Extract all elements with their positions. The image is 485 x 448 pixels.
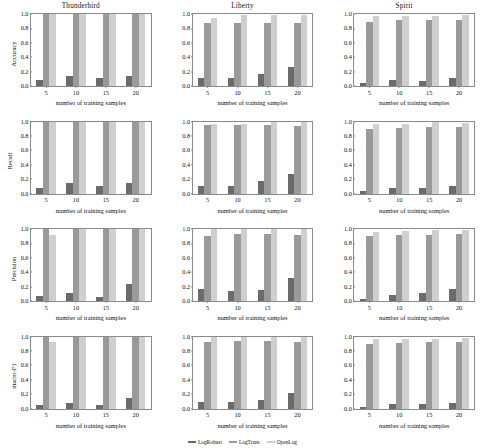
x-axis-tick: 15 — [264, 89, 270, 96]
y-axis-tick: 0.4 — [344, 377, 352, 383]
bar-group-15: 15 — [91, 337, 121, 409]
x-axis-tick: 15 — [103, 304, 109, 311]
legend-swatch-openlog — [267, 441, 275, 444]
x-tick-mark — [267, 193, 268, 195]
bar-group-15: 15 — [414, 122, 444, 194]
bar-openlog — [211, 337, 218, 408]
bar-groups: 5101520 — [354, 14, 474, 86]
x-axis-tick: 10 — [234, 304, 240, 311]
x-axis-tick: 15 — [264, 304, 270, 311]
bar-openlog — [139, 229, 146, 301]
bar-group-5: 5 — [354, 337, 384, 409]
bar-groups: 5101520 — [31, 229, 151, 301]
y-axis-tick: 1.0 — [344, 11, 352, 17]
x-axis-tick: 15 — [426, 304, 432, 311]
y-axis-tick: 0.0 — [344, 83, 352, 89]
bar-group-15: 15 — [253, 337, 283, 409]
x-axis-label: number of training samples — [30, 422, 152, 429]
x-axis-label: number of training samples — [192, 314, 314, 321]
x-axis-tick: 10 — [396, 196, 402, 203]
bar-openlog — [462, 15, 469, 86]
bar-openlog — [49, 235, 56, 301]
y-axis-tick: 0.8 — [182, 348, 190, 354]
y-axis-tick: 0.2 — [344, 68, 352, 74]
x-axis-label: number of training samples — [192, 99, 314, 106]
y-axis-tick: 0.2 — [182, 176, 190, 182]
y-axis-tick: 0.4 — [21, 377, 29, 383]
x-axis-label: number of training samples — [353, 422, 475, 429]
subplot-precision-thunderbird: Precision0.00.20.40.60.81.05101520number… — [0, 215, 162, 323]
x-tick-mark — [429, 408, 430, 410]
bar-group-10: 10 — [384, 229, 414, 301]
y-axis-tick: 0.0 — [182, 405, 190, 411]
x-tick-mark — [105, 193, 106, 195]
y-axis-tick: 0.0 — [182, 83, 190, 89]
x-axis-tick: 5 — [44, 89, 47, 96]
y-axis-tick: 0.4 — [21, 54, 29, 60]
bar-openlog — [79, 14, 86, 86]
bar-openlog — [139, 14, 146, 86]
y-axis-tick: 0.2 — [344, 283, 352, 289]
bar-openlog — [109, 14, 116, 86]
bar-group-10: 10 — [223, 229, 253, 301]
y-axis-tick: 0.8 — [344, 25, 352, 31]
x-axis-tick: 10 — [73, 304, 79, 311]
y-axis-tick: 1.0 — [21, 11, 29, 17]
y-axis-tick: 0.2 — [21, 391, 29, 397]
bar-openlog — [139, 337, 146, 409]
y-axis-tick: 1.0 — [21, 333, 29, 339]
legend-swatch-logrobust — [188, 441, 196, 444]
x-tick-mark — [237, 193, 238, 195]
y-axis-tick: 0.2 — [182, 68, 190, 74]
x-tick-mark — [399, 86, 400, 88]
bar-group-5: 5 — [193, 229, 223, 301]
x-axis-tick: 10 — [73, 89, 79, 96]
x-axis-label: number of training samples — [30, 99, 152, 106]
x-tick-mark — [369, 86, 370, 88]
bar-group-5: 5 — [354, 122, 384, 194]
y-axis-tick: 0.6 — [344, 362, 352, 368]
plot-area: 0.00.20.40.60.81.05101520 — [353, 228, 475, 302]
bar-openlog — [301, 122, 308, 193]
x-tick-mark — [297, 301, 298, 303]
bar-openlog — [373, 339, 380, 408]
y-axis-tick: 0.6 — [21, 255, 29, 261]
y-axis-tick: 0.0 — [21, 190, 29, 196]
bar-group-15: 15 — [414, 14, 444, 86]
x-tick-mark — [135, 193, 136, 195]
y-axis-tick: 0.4 — [21, 162, 29, 168]
y-axis-tick: 0.4 — [182, 377, 190, 383]
y-axis-tick: 0.4 — [182, 162, 190, 168]
bar-openlog — [271, 337, 278, 409]
y-axis-label: Accuracy — [10, 41, 17, 66]
bar-openlog — [211, 229, 218, 301]
y-axis-tick: 0.6 — [21, 147, 29, 153]
x-tick-mark — [459, 86, 460, 88]
bar-group-20: 20 — [121, 14, 151, 86]
plot-area: 0.00.20.40.60.81.05101520 — [30, 121, 152, 195]
y-axis-tick: 0.4 — [182, 54, 190, 60]
x-axis-tick: 5 — [368, 196, 371, 203]
x-tick-mark — [429, 301, 430, 303]
x-axis-label: number of training samples — [192, 422, 314, 429]
bar-openlog — [373, 232, 380, 301]
x-axis-tick: 20 — [294, 196, 300, 203]
y-axis-tick: 0.0 — [182, 298, 190, 304]
x-axis-tick: 5 — [206, 411, 209, 418]
y-axis-tick: 0.8 — [21, 133, 29, 139]
x-tick-mark — [459, 301, 460, 303]
bar-openlog — [373, 124, 380, 193]
y-axis-tick: 1.0 — [21, 226, 29, 232]
y-axis-tick: 1.0 — [344, 118, 352, 124]
x-tick-mark — [267, 301, 268, 303]
y-axis-tick: 0.2 — [21, 68, 29, 74]
x-tick-mark — [207, 408, 208, 410]
x-axis-tick: 20 — [133, 196, 139, 203]
bar-group-5: 5 — [31, 14, 61, 86]
bar-groups: 5101520 — [193, 229, 313, 301]
x-tick-mark — [105, 301, 106, 303]
x-tick-mark — [399, 193, 400, 195]
subplot-macro-f1-liberty: 0.00.20.40.60.81.05101520number of train… — [162, 323, 324, 431]
bar-group-20: 20 — [282, 14, 312, 86]
bar-group-15: 15 — [414, 229, 444, 301]
